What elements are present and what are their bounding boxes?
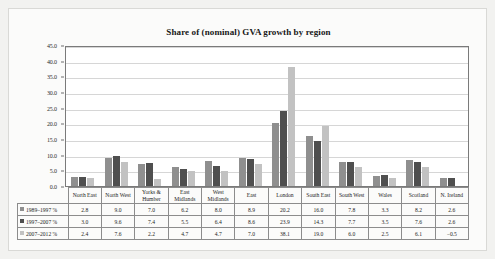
data-cell: 7.0 (135, 204, 168, 216)
bar (440, 178, 447, 186)
data-cell: 6.2 (168, 204, 201, 216)
bar-group (167, 47, 201, 186)
bar (389, 178, 396, 186)
bar-group (133, 47, 167, 186)
bar (381, 175, 388, 186)
category-header: Scotland (402, 188, 435, 204)
data-cell: 8.6 (235, 216, 268, 228)
data-cell: 19.0 (302, 228, 335, 240)
table-corner-cell (18, 188, 69, 204)
legend-entry: 1989–1997 % (18, 204, 69, 216)
bar (113, 156, 120, 186)
legend-label: 1989–1997 % (26, 207, 57, 213)
bar-group (334, 47, 368, 186)
y-tick-mark (61, 93, 64, 94)
data-cell: 14.3 (302, 216, 335, 228)
data-cell: 7.6 (402, 216, 435, 228)
data-cell: 3.3 (368, 204, 401, 216)
y-tick-mark (61, 46, 64, 47)
data-table: North EastNorth WestYorks & HumberEast M… (17, 187, 469, 240)
category-header: Yorks & Humber (135, 188, 168, 204)
bar (146, 163, 153, 186)
bar (213, 166, 220, 186)
data-cell: 5.5 (168, 216, 201, 228)
y-tick-label: 40.0 (47, 59, 57, 65)
bar-group (200, 47, 234, 186)
bar (422, 167, 429, 186)
data-cell: 2.4 (68, 228, 101, 240)
bar-group (267, 47, 301, 186)
bar (322, 126, 329, 186)
data-cell: 16.0 (302, 204, 335, 216)
data-cell: 23.9 (268, 216, 301, 228)
data-cell: 9.0 (101, 204, 134, 216)
bar (355, 167, 362, 186)
y-tick-label: 45.0 (47, 43, 57, 49)
bar (339, 162, 346, 186)
data-cell: 7.4 (135, 216, 168, 228)
data-cell: 3.0 (68, 216, 101, 228)
data-cell: 2.6 (435, 216, 468, 228)
bar (272, 123, 279, 186)
data-cell: 7.8 (335, 204, 368, 216)
bars-layer (66, 47, 468, 186)
bar (221, 171, 228, 186)
y-tick-mark (61, 108, 64, 109)
y-tick-label: 30.0 (47, 90, 57, 96)
bar (71, 177, 78, 186)
chart-title: Share of (nominal) GVA growth by region (9, 27, 488, 37)
bar (188, 171, 195, 186)
bar (239, 158, 246, 186)
bar (373, 176, 380, 186)
y-tick-label: 10.0 (47, 153, 57, 159)
bar (105, 158, 112, 186)
bar (79, 177, 86, 186)
bar (414, 162, 421, 186)
data-cell: 7.7 (335, 216, 368, 228)
category-header: London (268, 188, 301, 204)
data-cell: 7.0 (235, 228, 268, 240)
bar (247, 159, 254, 186)
y-tick-mark (61, 155, 64, 156)
bar (288, 67, 295, 186)
data-cell: 9.6 (101, 216, 134, 228)
data-cell: 8.2 (402, 204, 435, 216)
y-axis: 45.040.035.030.025.020.015.010.05.00.0 (33, 46, 61, 187)
data-cell: 2.8 (68, 204, 101, 216)
chart-figure: Share of (nominal) GVA growth by region … (0, 0, 495, 259)
bar (205, 161, 212, 186)
data-cell: 3.5 (368, 216, 401, 228)
data-cell: 7.6 (101, 228, 134, 240)
data-cell: 20.2 (268, 204, 301, 216)
legend-label: 2007–2012 % (26, 231, 57, 237)
y-tick-mark (61, 77, 64, 78)
y-tick-mark (61, 124, 64, 125)
bar-group (301, 47, 335, 186)
bar (406, 160, 413, 186)
y-tick-mark (61, 61, 64, 62)
category-header: North East (68, 188, 101, 204)
category-header: South West (335, 188, 368, 204)
legend-label: 1997–2007 % (26, 219, 57, 225)
bar-group (401, 47, 435, 186)
legend-entry: 1997–2007 % (18, 216, 69, 228)
bar (448, 178, 455, 186)
bar (280, 111, 287, 186)
data-cell: 8.9 (235, 204, 268, 216)
category-header: East (235, 188, 268, 204)
y-tick-label: 15.0 (47, 137, 57, 143)
bar-group (234, 47, 268, 186)
legend-swatch (20, 231, 24, 235)
data-cell: 4.7 (168, 228, 201, 240)
bar (347, 162, 354, 186)
legend-swatch (20, 219, 24, 223)
plot-area (65, 46, 469, 187)
bar (314, 141, 321, 186)
plot-wrapper: 45.040.035.030.025.020.015.010.05.00.0 (65, 46, 469, 187)
data-cell: 8.0 (202, 204, 235, 216)
category-header: N. Ireland (435, 188, 468, 204)
bar (180, 169, 187, 186)
bar (255, 164, 262, 186)
y-tick-mark (61, 140, 64, 141)
chart-frame: Share of (nominal) GVA growth by region … (8, 8, 487, 251)
